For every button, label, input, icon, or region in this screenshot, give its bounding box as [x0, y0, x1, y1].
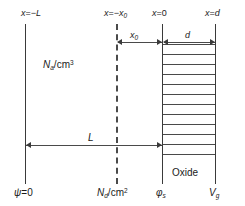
oxide-region	[163, 44, 215, 164]
label-x-equals-d: x=d	[205, 9, 220, 18]
hatch-line	[163, 54, 215, 55]
hatch-line	[163, 134, 215, 135]
zero-subscript: 0	[135, 34, 139, 41]
per-cm-units: /cm	[108, 187, 124, 198]
d-dimension-line	[164, 42, 215, 43]
label-oxide: Oxide	[172, 168, 198, 178]
d-arrowhead-right	[210, 39, 215, 45]
cubed-exponent: 3	[70, 59, 74, 66]
hatch-line	[163, 64, 215, 65]
L-dimension-line	[26, 145, 162, 146]
s-subscript: s	[163, 192, 166, 199]
hatch-line	[163, 84, 215, 85]
label-x-equals-minus-L: x=−L	[21, 9, 41, 18]
label-L-dimension: L	[88, 133, 94, 143]
per-cm-units: /cm	[54, 59, 70, 70]
L-arrowhead-left	[26, 142, 31, 148]
hatch-line	[163, 154, 215, 155]
hatch-line	[163, 124, 215, 125]
x0-arrowhead-left	[117, 39, 122, 45]
label-x0-dimension: x0	[130, 31, 138, 42]
label-v-g: Vg	[209, 188, 219, 200]
label-bulk-doping: Na/cm3	[43, 60, 74, 72]
hatch-line	[163, 94, 215, 95]
mos-structure-diagram: x=−L x=−x0 x=0 x=d Na/cm3 Oxide x0	[0, 0, 245, 206]
d-arrowhead-left	[163, 39, 168, 45]
g-subscript: g	[216, 192, 220, 199]
minus-L-value: −L	[31, 8, 41, 18]
zero-value: 0	[162, 8, 167, 18]
hatch-line	[163, 44, 215, 45]
squared-exponent: 2	[124, 187, 128, 194]
L-arrowhead-right	[157, 142, 162, 148]
label-x-equals-minus-x0: x=−x0	[104, 9, 127, 20]
L-symbol: L	[88, 132, 94, 143]
hatch-line	[163, 144, 215, 145]
V-symbol: V	[209, 187, 216, 198]
x0-dimension-line	[118, 42, 162, 43]
d-symbol: d	[185, 30, 190, 40]
hatch-line	[163, 114, 215, 115]
boundary-line-x-minus-x0-dashed	[116, 24, 118, 184]
label-d-dimension: d	[185, 31, 190, 40]
label-sheet-charge-density: Nd/cm2	[97, 188, 128, 200]
zero-subscript: 0	[124, 12, 128, 19]
label-phi-s: φs	[156, 188, 166, 200]
hatch-line	[163, 104, 215, 105]
boundary-line-x-minus-L	[25, 24, 26, 184]
hatch-line	[163, 74, 215, 75]
d-value: d	[215, 8, 220, 18]
minus-x-value: −x	[114, 8, 124, 18]
label-x-equals-zero: x=0	[152, 9, 167, 18]
zero-value: 0	[27, 187, 33, 198]
boundary-line-x-d	[215, 24, 216, 184]
x0-arrowhead-right	[157, 39, 162, 45]
label-psi-equals-zero: ψ=0	[14, 188, 33, 198]
